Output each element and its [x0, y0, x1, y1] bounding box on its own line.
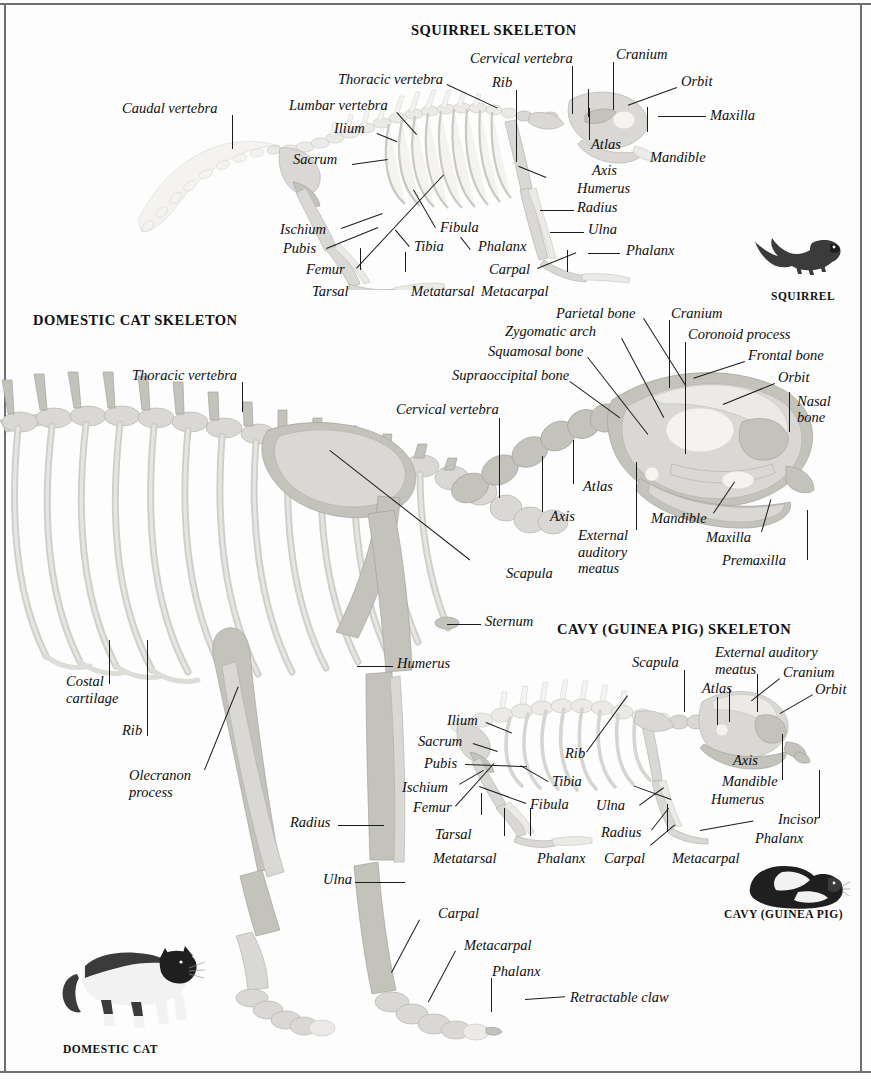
squirrel-label-tarsal: Tarsal: [312, 284, 349, 300]
leader-squirrel-maxilla: [658, 116, 706, 117]
leader-squirrel-mandible: [647, 107, 648, 132]
page-border-top: [0, 3, 871, 5]
cat-label-external-auditory-meatus: Externalauditorymeatus: [578, 527, 646, 577]
cat-label-axis: Axis: [550, 509, 575, 525]
squirrel-label-metatarsal: Metatarsal: [411, 284, 475, 300]
squirrel-label-cervical-vertebra: Cervical vertebra: [470, 51, 573, 67]
cat-label-frontal-bone: Frontal bone: [748, 348, 824, 364]
cat-label-costal-cartilage-text: Costalcartilage: [66, 673, 118, 706]
cat-label-phalanx: Phalanx: [492, 964, 540, 980]
cavy-label-atlas: Atlas: [702, 681, 732, 697]
cat-label-ulna: Ulna: [323, 872, 352, 888]
squirrel-label-atlas: Atlas: [591, 137, 621, 153]
leader-cat-radius: [338, 825, 384, 826]
cat-label-squamosal-bone: Squamosal bone: [488, 344, 583, 360]
cavy-label-femur: Femur: [413, 800, 452, 816]
squirrel-label-metacarpal: Metacarpal: [481, 284, 549, 300]
squirrel-label-tibia: Tibia: [414, 239, 444, 255]
leader-squirrel-cranium: [613, 62, 614, 110]
squirrel-label-humerus: Humerus: [577, 181, 630, 197]
cat-label-nasal-bone: Nasalbone: [797, 393, 855, 425]
domestic-cat-engraving: [55, 938, 205, 1036]
squirrel-label-femur: Femur: [306, 262, 345, 278]
cavy-label-fibula: Fibula: [530, 797, 569, 813]
squirrel-label-sacrum: Sacrum: [293, 152, 337, 168]
cat-label-scapula: Scapula: [506, 566, 553, 582]
leader-cavy-atlas: [717, 697, 718, 725]
cat-label-cervical-vertebra: Cervical vertebra: [396, 402, 499, 418]
cat-label-cranium: Cranium: [671, 306, 723, 322]
leader-cavy-mandible: [782, 734, 783, 780]
leader-squirrel-cervical-vertebra: [572, 66, 573, 114]
leader-cavy-incisor: [819, 770, 820, 818]
leader-squirrel-phalanx-fore: [588, 253, 620, 254]
leader-cavy-external-auditory-meatus: [757, 674, 758, 712]
page-border-right: [860, 3, 862, 1073]
cat-label-costal-cartilage: Costalcartilage: [66, 673, 128, 706]
cavy-label-axis: Axis: [733, 753, 758, 769]
leader-cat-sternum: [447, 624, 481, 625]
squirrel-caption: SQUIRREL: [771, 290, 835, 302]
squirrel-label-fibula: Fibula: [440, 220, 479, 236]
cavy-label-ilium: Ilium: [447, 713, 478, 729]
cavy-label-metatarsal: Metatarsal: [433, 851, 497, 867]
cat-label-radius: Radius: [290, 815, 330, 831]
cat-label-rib: Rib: [122, 723, 142, 739]
cavy-section-title: CAVY (GUINEA PIG) SKELETON: [557, 621, 791, 638]
cavy-label-pubis: Pubis: [424, 756, 457, 772]
squirrel-label-phalanx-hind: Phalanx: [478, 239, 526, 255]
squirrel-label-thoracic-vertebra: Thoracic vertebra: [338, 72, 443, 88]
cavy-label-mandible: Mandible: [722, 774, 778, 790]
cat-label-supraoccipital-bone: Supraoccipital bone: [452, 368, 569, 384]
cavy-label-ulna: Ulna: [596, 798, 625, 814]
cat-label-orbit: Orbit: [778, 370, 809, 386]
cat-label-sternum: Sternum: [485, 614, 533, 630]
squirrel-label-mandible: Mandible: [650, 150, 706, 166]
leader-squirrel-tarsal: [360, 248, 361, 270]
leader-squirrel-metacarpal: [567, 250, 568, 272]
squirrel-label-rib: Rib: [492, 75, 512, 91]
cavy-label-sacrum: Sacrum: [418, 734, 462, 750]
cat-label-olecranon-text: Olecranonprocess: [129, 767, 191, 800]
cavy-label-orbit: Orbit: [815, 682, 846, 698]
cavy-label-tibia: Tibia: [552, 774, 582, 790]
reference-page: SQUIRREL SKELETON Caudal vertebra Thorac…: [0, 0, 871, 1080]
cat-label-atlas: Atlas: [583, 479, 613, 495]
leader-cat-costal-cartilage: [109, 640, 110, 684]
squirrel-label-ulna: Ulna: [588, 222, 617, 238]
cavy-label-rib: Rib: [565, 746, 585, 762]
leader-cat-cervical-vertebra: [499, 418, 500, 498]
squirrel-label-axis: Axis: [592, 163, 617, 179]
cat-label-maxilla: Maxilla: [706, 530, 751, 546]
leader-squirrel-rib: [516, 90, 517, 162]
leader-cat-atlas: [573, 440, 574, 484]
leader-cat-cranium: [669, 320, 670, 388]
leader-cat-external-auditory-meatus: [636, 462, 637, 530]
cat-label-parietal-bone: Parietal bone: [556, 306, 635, 322]
leader-cat-phalanx: [491, 978, 492, 1012]
squirrel-label-pubis: Pubis: [283, 241, 316, 257]
cat-caption: DOMESTIC CAT: [63, 1043, 158, 1055]
cavy-label-phalanx-hind: Phalanx: [537, 851, 585, 867]
cavy-label-humerus: Humerus: [711, 792, 764, 808]
squirrel-label-caudal-vertebra: Caudal vertebra: [122, 101, 217, 117]
cat-label-mandible: Mandible: [651, 511, 707, 527]
cat-label-retractable-claw: Retractable claw: [570, 990, 669, 1006]
leader-squirrel-caudal-vertebra: [232, 115, 233, 149]
cat-label-premaxilla: Premaxilla: [722, 553, 786, 569]
cavy-label-incisor: Incisor: [778, 812, 819, 828]
squirrel-label-orbit: Orbit: [681, 74, 712, 90]
squirrel-label-carpal: Carpal: [489, 262, 530, 278]
cat-label-olecranon-process: Olecranonprocess: [129, 767, 199, 800]
squirrel-label-ischium: Ischium: [280, 222, 326, 238]
leader-cat-coronoid-process: [685, 342, 686, 454]
cavy-label-phalanx-fore: Phalanx: [755, 831, 803, 847]
leader-cat-rib: [147, 640, 148, 736]
leader-squirrel-axis: [589, 108, 590, 140]
leader-cat-thoracic-vertebra: [242, 382, 243, 412]
page-border-bottom: [0, 1071, 871, 1073]
leader-cavy-metatarsal: [504, 808, 505, 836]
leader-squirrel-radius: [540, 210, 574, 211]
cat-label-nasal-bone-text: Nasalbone: [797, 393, 831, 425]
leader-cat-axis: [542, 456, 543, 512]
